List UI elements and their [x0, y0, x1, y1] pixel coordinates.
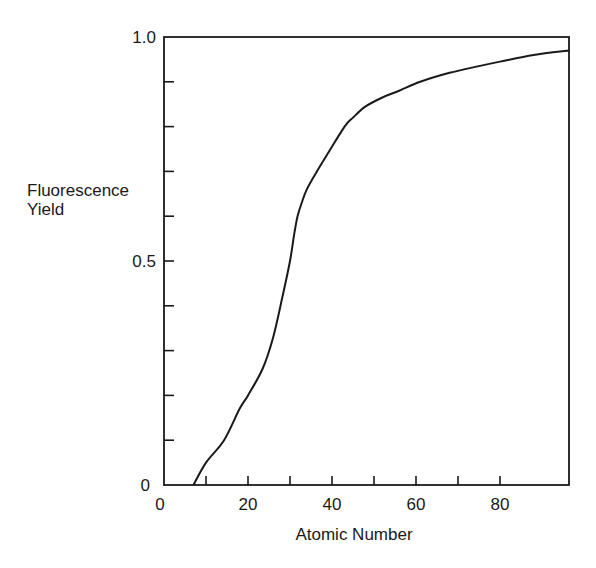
- x-tick-label: 0: [155, 495, 164, 514]
- x-tick-label: 40: [323, 495, 342, 514]
- x-axis-label: Atomic Number: [295, 525, 412, 544]
- chart: 020406080 00.51.0 Atomic Number Fluoresc…: [0, 0, 596, 568]
- y-axis-label: Fluorescence Yield: [27, 181, 129, 219]
- plot-frame: [164, 37, 569, 485]
- chart-plot-area: 020406080 00.51.0 Atomic Number: [0, 0, 596, 568]
- y-axis-label-line-1: Fluorescence: [27, 181, 129, 200]
- x-tick-label: 80: [491, 495, 510, 514]
- fluorescence-yield-curve: [193, 50, 569, 485]
- y-axis-ticks: [164, 82, 174, 440]
- plot-border: [164, 37, 569, 485]
- y-axis-label-line-2: Yield: [27, 200, 129, 219]
- x-axis-ticks: [206, 476, 500, 485]
- y-tick-label: 0: [141, 476, 150, 495]
- x-tick-label: 20: [239, 495, 258, 514]
- x-axis-tick-labels: 020406080: [155, 495, 509, 514]
- y-axis-tick-labels: 00.51.0: [132, 28, 156, 495]
- x-tick-label: 60: [407, 495, 426, 514]
- y-tick-label: 0.5: [132, 252, 156, 271]
- y-tick-label: 1.0: [132, 28, 156, 47]
